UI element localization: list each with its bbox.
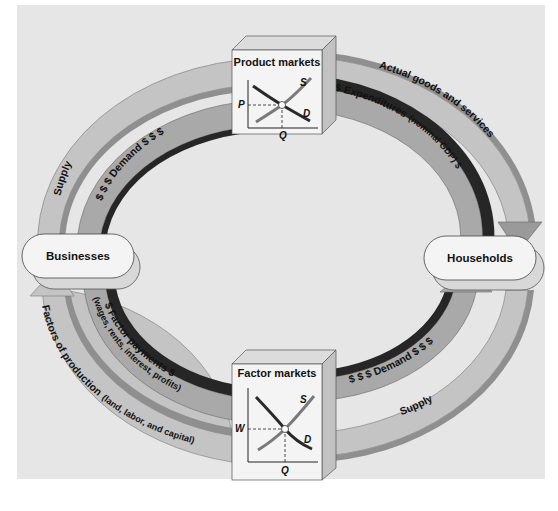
product-supply-label: S xyxy=(300,77,307,88)
factor-markets-box: Factor markets S D W Q xyxy=(232,350,336,480)
factor-markets-title: Factor markets xyxy=(238,367,317,379)
product-quantity-label: Q xyxy=(279,130,287,141)
product-price-label: P xyxy=(238,99,245,110)
factor-quantity-label: Q xyxy=(281,465,289,476)
households-node: Households xyxy=(424,236,544,290)
businesses-label: Businesses xyxy=(46,250,110,262)
product-markets-box: Product markets S D P Q xyxy=(232,36,336,141)
factor-supply-label: S xyxy=(300,394,307,405)
circular-flow-diagram: Supply Actual goods and services $ $ $ D… xyxy=(0,0,558,511)
households-label: Households xyxy=(447,252,513,264)
businesses-node: Businesses xyxy=(22,234,140,289)
factor-wage-label: W xyxy=(235,423,246,434)
factor-demand-label: D xyxy=(304,434,311,445)
product-demand-label: D xyxy=(303,108,310,119)
product-markets-title: Product markets xyxy=(234,56,321,68)
